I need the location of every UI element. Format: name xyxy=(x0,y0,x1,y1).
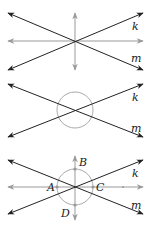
point-a xyxy=(55,185,58,188)
label-m: m xyxy=(131,122,141,135)
label-m: m xyxy=(131,52,141,65)
label-k: k xyxy=(132,20,139,33)
label-b: B xyxy=(78,156,87,169)
label-c: C xyxy=(96,181,105,194)
panel-1: k m xyxy=(8,13,143,70)
label-d: D xyxy=(60,207,70,220)
label-m: m xyxy=(131,199,141,212)
point-c xyxy=(91,185,94,188)
point-d xyxy=(73,203,76,206)
geometry-diagram: k m k m A B C D k m xyxy=(0,0,152,228)
point-b xyxy=(73,167,76,170)
tick-mark xyxy=(122,186,124,188)
label-a: A xyxy=(46,181,55,194)
panel-2: k m xyxy=(8,84,143,137)
label-k: k xyxy=(132,91,139,104)
panel-3: A B C D k m xyxy=(8,156,143,220)
label-k: k xyxy=(132,167,139,180)
